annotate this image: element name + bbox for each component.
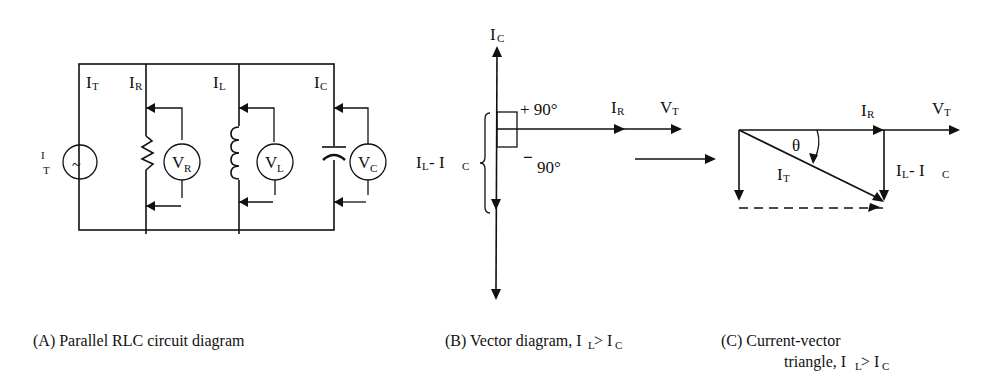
svg-text:R: R	[135, 80, 143, 92]
ac-source-tilde: ~	[72, 156, 81, 173]
rlc-diagram-canvas: ~ I T I T I R I L I C	[0, 0, 987, 379]
svg-text:T: T	[672, 105, 679, 117]
theta-label: θ	[792, 136, 800, 155]
vt-arrowhead	[671, 124, 682, 134]
label-it: I T	[86, 73, 99, 92]
svg-text:C: C	[882, 360, 889, 372]
vertical-axis	[496, 52, 497, 290]
ir-arrowhead-c	[873, 125, 884, 135]
resistor-symbol	[140, 136, 153, 170]
minus-90-label: 90°	[537, 158, 561, 177]
svg-text:L: L	[277, 162, 284, 174]
svg-text:- I: - I	[429, 153, 445, 172]
svg-text:I: I	[490, 25, 496, 44]
vector-diagram: I C + 90° − 90° I R V T I L - I C	[416, 25, 716, 300]
svg-text:(C) Current-vector: (C) Current-vector	[721, 332, 841, 350]
label-il: I L	[213, 73, 226, 92]
svg-text:L: L	[422, 160, 429, 172]
inductor-symbol	[231, 126, 245, 180]
minus-sign: −	[523, 148, 533, 167]
caption-c: (C) Current-vector triangle, I L > I C	[721, 332, 889, 372]
svg-text:> I: > I	[861, 353, 879, 370]
caption-b: (B) Vector diagram, I L > I C	[445, 332, 622, 351]
ir-arrowhead	[614, 124, 625, 134]
svg-text:C: C	[462, 160, 469, 172]
bottom-arrowhead	[491, 289, 501, 300]
svg-text:C: C	[497, 32, 504, 44]
plus-90-label: + 90°	[520, 100, 558, 119]
ir-label-b: I R	[611, 98, 625, 117]
voltmeter-vl: V L	[239, 103, 293, 207]
label-ir: I R	[129, 73, 143, 92]
current-vector-triangle: θ I T I R V T I L - I C	[734, 99, 960, 212]
svg-text:C: C	[370, 162, 377, 174]
svg-text:- I: - I	[909, 161, 925, 180]
svg-text:R: R	[867, 108, 875, 120]
caption-a: (A) Parallel RLC circuit diagram	[33, 332, 245, 350]
ic-up-label: I C	[490, 25, 504, 44]
svg-text:C: C	[615, 339, 622, 351]
it-hypotenuse	[739, 130, 882, 200]
svg-text:T: T	[43, 164, 50, 176]
it-label-c: I T	[777, 165, 790, 184]
circuit-outer-wire	[79, 64, 334, 230]
svg-text:C: C	[320, 80, 327, 92]
svg-text:T: T	[92, 80, 99, 92]
transition-arrowhead	[705, 154, 716, 164]
ic-arrowhead	[492, 46, 502, 57]
il-minus-ic-label-c: I L - I C	[896, 161, 949, 180]
svg-text:T: T	[944, 106, 951, 118]
svg-text:L: L	[902, 168, 909, 180]
svg-text:T: T	[783, 172, 790, 184]
voltmeter-vr: V R	[146, 103, 200, 211]
il-minus-ic-label-b: I L - I C	[416, 153, 469, 172]
vt-arrowhead-c	[949, 125, 960, 135]
vt-label-c: V T	[932, 99, 951, 118]
left-vertical-arrowhead	[734, 190, 744, 201]
ir-label-c: I R	[861, 101, 875, 120]
il-ic-arrowhead	[491, 199, 501, 210]
ac-source: ~	[63, 145, 97, 179]
parallel-rlc-circuit: ~ I T I T I R I L I C	[41, 64, 386, 234]
svg-text:> I: > I	[594, 332, 612, 349]
svg-text:R: R	[184, 162, 192, 174]
svg-text:C: C	[942, 168, 949, 180]
svg-text:I: I	[41, 149, 45, 161]
dashed-arrowhead	[868, 203, 880, 212]
vt-label-b: V T	[660, 98, 679, 117]
source-current-label: I T	[41, 149, 50, 176]
curly-brace	[480, 113, 490, 213]
svg-text:R: R	[617, 105, 625, 117]
svg-text:L: L	[219, 80, 226, 92]
svg-text:triangle, I: triangle, I	[784, 353, 846, 371]
label-ic: I C	[314, 73, 327, 92]
capacitor-symbol	[322, 146, 346, 160]
svg-text:(B) Vector diagram, I: (B) Vector diagram, I	[445, 332, 582, 350]
